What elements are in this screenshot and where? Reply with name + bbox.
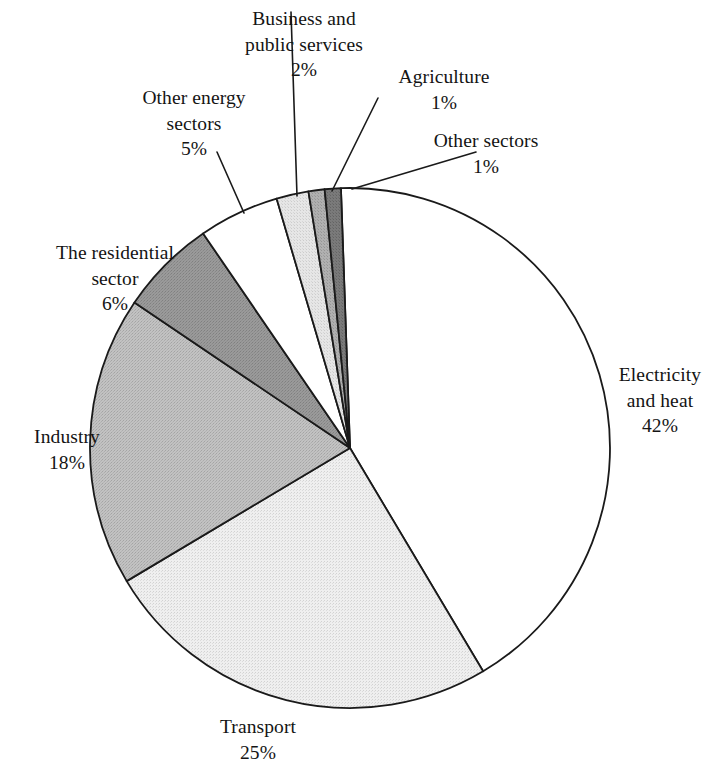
slice-value-electricity: 42% [600, 413, 718, 439]
slice-value-industry: 18% [0, 450, 134, 476]
slice-label-other-sectors: Other sectors 1% [386, 128, 586, 179]
slice-value-agriculture: 1% [344, 90, 544, 116]
slice-value-transport: 25% [168, 740, 348, 766]
slice-label-electricity-line2: and heat [600, 388, 718, 414]
slice-label-agriculture: Agriculture 1% [344, 64, 544, 115]
slice-value-residential: 6% [20, 291, 210, 317]
slice-label-industry-line1: Industry [0, 424, 134, 450]
slice-label-business-line1: Business and [204, 6, 404, 32]
slice-label-other-energy-line1: Other energy [104, 85, 284, 111]
slice-label-agriculture-line1: Agriculture [344, 64, 544, 90]
slice-value-other-sectors: 1% [386, 154, 586, 180]
slice-label-other-energy-sectors: Other energy sectors 5% [104, 85, 284, 162]
slice-value-other-energy: 5% [104, 136, 284, 162]
slice-label-other-energy-line2: sectors [104, 111, 284, 137]
slice-label-residential-line2: sector [20, 266, 210, 292]
slice-label-transport: Transport 25% [168, 714, 348, 765]
slice-label-residential-sector: The residential sector 6% [20, 240, 210, 317]
slice-label-electricity-line1: Electricity [600, 362, 718, 388]
slice-label-business-line2: public services [204, 32, 404, 58]
slice-label-electricity-and-heat: Electricity and heat 42% [600, 362, 718, 439]
pie-chart: Business and public services 2% Agricult… [0, 0, 718, 770]
slice-label-transport-line1: Transport [168, 714, 348, 740]
slice-label-other-sectors-line1: Other sectors [386, 128, 586, 154]
slice-label-industry: Industry 18% [0, 424, 134, 475]
slice-label-residential-line1: The residential [20, 240, 210, 266]
